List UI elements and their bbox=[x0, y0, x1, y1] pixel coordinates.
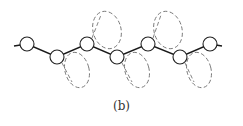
zigzag-chain-figure: (b) bbox=[0, 0, 243, 126]
atom-circle bbox=[203, 37, 217, 51]
atom-circle bbox=[141, 37, 155, 51]
lower-orbital-lobe bbox=[183, 50, 215, 91]
figure-caption: (b) bbox=[0, 99, 243, 113]
atom-circle bbox=[110, 50, 124, 64]
atom-circle bbox=[80, 37, 94, 51]
orbital-edge bbox=[92, 15, 101, 38]
atom-circle bbox=[173, 50, 187, 64]
orbital-edge bbox=[122, 63, 132, 82]
orbital-edge bbox=[62, 63, 72, 82]
orbital-edge bbox=[153, 15, 161, 38]
atom-circle bbox=[50, 50, 64, 64]
atom-circle bbox=[20, 37, 34, 51]
